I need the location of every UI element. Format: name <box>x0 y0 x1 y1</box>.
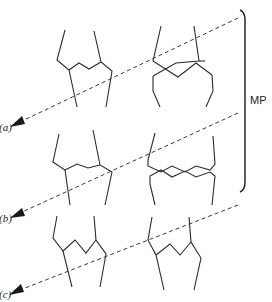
chain-a-right-lower-left <box>153 76 160 107</box>
chain-a-right-upper-left <box>153 26 212 77</box>
chain-a-left-zigzag <box>69 62 101 70</box>
label-c: (c) <box>0 288 12 301</box>
chain-a-right-upper-right <box>153 26 199 76</box>
arrow-c <box>9 205 238 295</box>
molecule-b-left <box>53 130 112 205</box>
molecule-a-left <box>57 30 112 107</box>
chain-a-left-upper-left <box>57 30 77 107</box>
row-a <box>57 26 213 107</box>
bracket-mp <box>240 10 245 192</box>
chain-c-right-zigzag <box>156 242 191 255</box>
chain-c-right-upper-right <box>189 217 201 290</box>
row-c <box>53 216 201 290</box>
diagram-canvas: (a) (b) (c) MP <box>0 0 272 302</box>
arrow-a-head <box>10 116 25 127</box>
molecule-c-left <box>53 216 106 287</box>
arrow-c-head <box>9 284 24 295</box>
chain-a-left-upper-right <box>94 31 112 107</box>
chain-c-right-upper-left <box>148 217 164 290</box>
chain-b-left-zigzag <box>65 164 100 170</box>
arrow-c-line <box>20 205 238 290</box>
molecule-c-right <box>148 217 201 290</box>
row-b <box>53 130 215 205</box>
chain-c-left-upper-left <box>53 216 72 287</box>
bracket-label-mp: MP <box>250 94 267 106</box>
chain-b-left-upper-right <box>93 130 112 205</box>
arrow-a <box>10 18 238 127</box>
chain-a-right-lower-right <box>206 75 213 107</box>
chain-b-right-bottom <box>150 170 215 205</box>
label-a: (a) <box>0 121 12 134</box>
arrow-b-head <box>10 208 25 218</box>
chain-c-left-zigzag <box>63 240 96 253</box>
arrow-b <box>10 113 238 218</box>
chain-b-left-upper-left <box>53 134 70 205</box>
arrow-b-line <box>20 113 238 213</box>
label-b: (b) <box>0 212 12 225</box>
molecule-a-right <box>153 26 213 107</box>
chain-c-left-upper-right <box>94 216 106 287</box>
chain-b-right-top <box>148 133 215 172</box>
molecule-b-right <box>148 133 215 205</box>
